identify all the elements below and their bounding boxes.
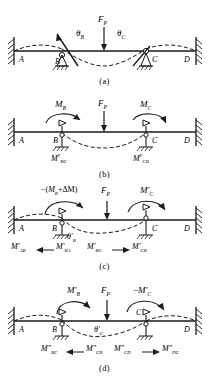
node-label-c: C bbox=[152, 137, 157, 145]
angle-theta-b: θB bbox=[76, 29, 84, 40]
angle-theta-c: θC bbox=[117, 29, 125, 40]
moment-label-mc: MC bbox=[140, 100, 151, 111]
moment-release-label: −(MB+ΔM) bbox=[41, 186, 77, 197]
moment-label-mb-prime: M′B bbox=[67, 286, 80, 297]
fixed-end-moment-bc: MFBC bbox=[51, 154, 67, 165]
panel-caption-a: (a) bbox=[0, 76, 209, 86]
load-label: FP bbox=[101, 286, 110, 297]
node-label-a: A bbox=[19, 137, 24, 145]
node-label-a: A bbox=[19, 225, 24, 233]
load-label: FP bbox=[98, 15, 107, 26]
angle-theta-b-prime: θ′B bbox=[67, 233, 76, 244]
moment-label-mc-prime-neg: −M′C bbox=[133, 286, 151, 297]
fixed-end-moment-cb: MFCB bbox=[133, 154, 149, 165]
load-label: FP bbox=[101, 186, 110, 197]
angle-theta-c-prime: θ′C bbox=[94, 326, 103, 337]
node-label-d: D bbox=[184, 137, 190, 145]
panel-d: A B C D M′B FP −M′C θ′C M″BC M″CB M″CD M… bbox=[0, 280, 209, 378]
moment-cb-prime: M′CB bbox=[132, 243, 147, 254]
moment-cd-dprime: M″CD bbox=[114, 345, 131, 356]
moment-bc-prime: M′BC bbox=[87, 243, 102, 254]
panel-caption-b: (b) bbox=[0, 169, 209, 179]
node-label-b: B bbox=[55, 58, 60, 66]
node-label-c: C bbox=[136, 309, 141, 317]
node-label-d: D bbox=[184, 326, 190, 334]
panel-caption-c: (c) bbox=[0, 261, 209, 271]
moment-ab-prime: M′AB bbox=[11, 243, 25, 254]
moment-label-mc-prime: M′C bbox=[140, 186, 153, 197]
panel-b: A B C D FP MB MC MFBC MFCB (b) bbox=[0, 92, 209, 184]
moment-ba-prime: M′BA bbox=[56, 243, 70, 254]
moment-dc-dprime: M″DC bbox=[162, 345, 179, 356]
node-label-a: A bbox=[19, 326, 24, 334]
node-label-d: D bbox=[184, 225, 190, 233]
load-label: FP bbox=[98, 99, 107, 110]
panel-caption-d: (d) bbox=[0, 363, 209, 373]
node-label-c: C bbox=[152, 225, 157, 233]
moment-bc-dprime: M″BC bbox=[41, 345, 57, 356]
panel-a: A B C D FP θB θC (a) bbox=[0, 0, 209, 92]
node-label-b: B bbox=[53, 137, 58, 145]
node-label-a: A bbox=[19, 56, 24, 64]
node-label-c: C bbox=[152, 56, 157, 64]
node-label-b: B bbox=[52, 326, 57, 334]
moment-label-mb: MB bbox=[55, 100, 66, 111]
panel-c: A B C D −(MB+ΔM) FP M′C θ′B M′AB M′BA M′… bbox=[0, 184, 209, 280]
node-label-b: B bbox=[52, 225, 57, 233]
moment-cb-dprime: M″CB bbox=[86, 345, 102, 356]
node-label-d: D bbox=[184, 56, 190, 64]
